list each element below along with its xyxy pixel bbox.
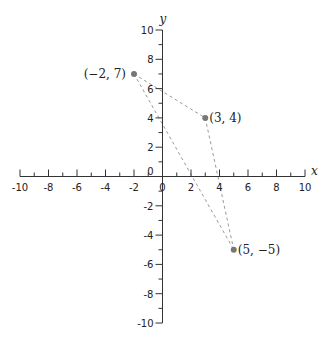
point-label: (5, −5) <box>238 243 280 257</box>
x-axis-title: x <box>311 164 318 178</box>
dashed-segment <box>134 74 234 250</box>
plot-area: xy -10-8-6-4-20246810-10-8-6-4-20246810 … <box>0 0 330 341</box>
x-tick-label: 10 <box>299 182 312 193</box>
axes: xy <box>20 12 318 323</box>
x-tick-label: -4 <box>101 182 111 193</box>
x-tick-label: 4 <box>216 182 222 193</box>
y-tick-label: 2 <box>147 142 153 153</box>
y-tick-label: 4 <box>147 113 153 124</box>
data-point <box>131 71 137 77</box>
x-tick-label: -8 <box>44 182 54 193</box>
x-tick-label: -6 <box>72 182 82 193</box>
y-tick-label: -4 <box>144 230 154 241</box>
coordinate-plane-chart: xy -10-8-6-4-20246810-10-8-6-4-20246810 … <box>0 0 330 341</box>
data-point <box>231 247 237 253</box>
y-axis-title: y <box>159 12 167 26</box>
data-points: (−2, 7)(3, 4)(5, −5) <box>84 67 280 257</box>
x-tick-label: 6 <box>245 182 251 193</box>
y-tick-label: -6 <box>144 259 154 270</box>
x-tick-label: 0 <box>159 182 165 193</box>
x-tick-label: -2 <box>129 182 139 193</box>
data-point <box>202 115 208 121</box>
triangle-edges <box>134 74 234 250</box>
point-label: (3, 4) <box>209 111 241 125</box>
y-tick-label: -10 <box>137 318 153 329</box>
y-tick-label: 6 <box>147 84 153 95</box>
x-tick-label: 8 <box>273 182 279 193</box>
y-tick-label: 0 <box>147 166 153 177</box>
y-tick-label: 8 <box>147 54 153 65</box>
dashed-segment <box>134 74 205 118</box>
y-tick-label: -8 <box>144 289 154 300</box>
y-tick-label: 10 <box>141 25 154 36</box>
point-label: (−2, 7) <box>84 67 126 81</box>
y-tick-label: -2 <box>144 201 154 212</box>
x-tick-label: -10 <box>12 182 28 193</box>
x-tick-label: 2 <box>188 182 194 193</box>
